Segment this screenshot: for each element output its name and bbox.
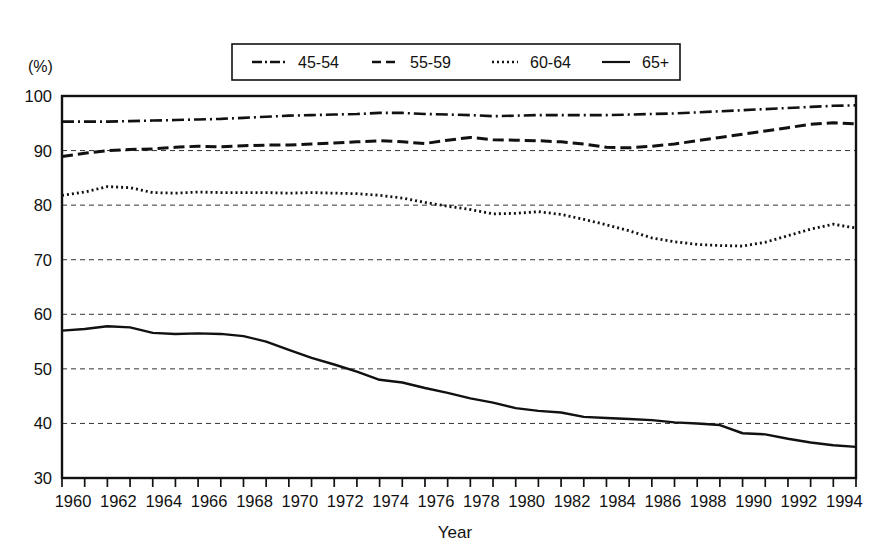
x-tick-label: 1962 (100, 492, 137, 510)
y-tick-label: 100 (24, 87, 52, 105)
line-chart: 30405060708090100 1960196219641966196819… (0, 0, 882, 556)
y-tick-label: 50 (34, 360, 52, 378)
y-tick-label: 80 (34, 196, 52, 214)
y-tick-label: 90 (34, 142, 52, 160)
x-tick-label: 1978 (463, 492, 500, 510)
y-tick-label: 70 (34, 251, 52, 269)
x-tick-label: 1966 (191, 492, 228, 510)
x-tick-label: 1982 (554, 492, 591, 510)
y-axis-unit-label: (%) (28, 58, 53, 75)
x-tick-label: 1972 (327, 492, 364, 510)
legend: 45-5455-5960-6465+ (232, 44, 680, 80)
x-tick-label: 1988 (690, 492, 727, 510)
legend-label-55-59: 55-59 (410, 54, 451, 71)
x-tick-label: 1980 (508, 492, 545, 510)
legend-label-45-54: 45-54 (298, 54, 339, 71)
x-tick-label: 1986 (644, 492, 681, 510)
legend-label-65+: 65+ (642, 54, 669, 71)
x-tick-label: 1994 (826, 492, 863, 510)
y-tick-label: 60 (34, 305, 52, 323)
x-axis-title: Year (438, 523, 473, 542)
x-tick-label: 1992 (781, 492, 818, 510)
chart-background (0, 0, 882, 556)
x-tick-label: 1984 (599, 492, 636, 510)
x-tick-label: 1976 (418, 492, 455, 510)
y-tick-label: 30 (34, 469, 52, 487)
y-tick-label: 40 (34, 414, 52, 432)
x-tick-label: 1960 (55, 492, 92, 510)
x-tick-label: 1974 (372, 492, 409, 510)
chart-container: 30405060708090100 1960196219641966196819… (0, 0, 882, 556)
legend-label-60-64: 60-64 (530, 54, 571, 71)
x-tick-label: 1968 (236, 492, 273, 510)
x-tick-label: 1970 (281, 492, 318, 510)
x-tick-label: 1964 (145, 492, 182, 510)
x-tick-label: 1990 (735, 492, 772, 510)
